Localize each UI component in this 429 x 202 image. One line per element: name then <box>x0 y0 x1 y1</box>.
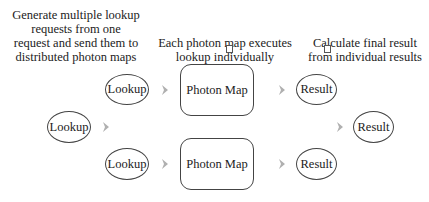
caption-line: distributed photon maps <box>3 50 149 64</box>
result-final-node: Result <box>353 111 394 143</box>
caption-execute-lookup: Each photon map executes lookup individu… <box>152 36 298 64</box>
arrow-right-icon <box>336 121 344 133</box>
caption-line: Calculate final result <box>296 36 429 50</box>
result-top-node: Result <box>296 74 337 105</box>
result-bottom-node: Result <box>296 148 337 180</box>
arrow-right-icon <box>278 84 286 96</box>
arrow-right-icon <box>102 121 110 133</box>
caption-line: requests from one <box>3 22 149 36</box>
lookup-source-node: Lookup <box>47 111 91 143</box>
caption-line: Generate multiple lookup <box>3 8 149 22</box>
lookup-bottom-node: Lookup <box>105 148 149 180</box>
arrow-right-icon <box>161 158 169 170</box>
caption-line: lookup individually <box>152 50 298 64</box>
caption-line: request and send them to <box>3 36 149 50</box>
caption-calculate-result: Calculate final result from individual r… <box>296 36 429 64</box>
lookup-top-node: Lookup <box>105 74 149 105</box>
caption-generate-lookups: Generate multiple lookup requests from o… <box>3 8 149 64</box>
caption-line: Each photon map executes <box>152 36 298 50</box>
photon-map-top-box: Photon Map <box>180 64 254 116</box>
arrow-right-icon <box>161 84 169 96</box>
caption-line: from individual results <box>296 50 429 64</box>
arrow-right-icon <box>278 158 286 170</box>
missing-glyph-icon <box>226 45 233 53</box>
photon-map-bottom-box: Photon Map <box>180 138 254 190</box>
missing-glyph-icon <box>324 45 331 53</box>
